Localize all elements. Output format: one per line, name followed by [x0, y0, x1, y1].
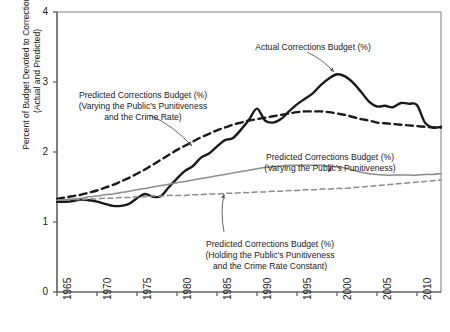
annotation-layer — [150, 52, 334, 232]
x-tick-label: 2010 — [422, 278, 433, 300]
annotation-label-predicted-punitiveness: Predicted Corrections Budget (%) (Varyin… — [220, 152, 440, 174]
figure-corrections-budget: Percent of Budget Devoted to Corrections… — [0, 0, 450, 332]
annotation-label-predicted-punitiveness-and-crime-rate: Predicted Corrections Budget (%) (Varyin… — [33, 90, 253, 124]
x-tick-label: 2005 — [382, 278, 393, 300]
annotation-arrow-actual-corrections-budget — [307, 52, 334, 72]
x-tick-label: 1980 — [182, 278, 193, 300]
x-tick-label: 1995 — [302, 278, 313, 300]
y-tick-label: 4 — [32, 6, 48, 17]
x-tick-label: 2000 — [342, 278, 353, 300]
x-tick-label: 1985 — [222, 278, 233, 300]
y-tick-label: 0 — [32, 286, 48, 297]
x-tick-label: 1975 — [142, 278, 153, 300]
y-tick-label: 2 — [32, 146, 48, 157]
y-tick-label: 1 — [32, 216, 48, 227]
x-tick-label: 1990 — [262, 278, 273, 300]
x-tick-label: 1970 — [102, 278, 113, 300]
annotation-label-actual-corrections-budget: Actual Corrections Budget (%) — [203, 42, 423, 53]
x-tick-label: 1965 — [62, 278, 73, 300]
y-tick-label: 3 — [32, 76, 48, 87]
annotation-label-predicted-constant: Predicted Corrections Budget (%) (Holdin… — [160, 239, 380, 273]
annotation-arrow-predicted-constant — [222, 194, 224, 232]
